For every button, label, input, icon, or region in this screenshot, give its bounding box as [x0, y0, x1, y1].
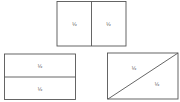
rectangle-horizontal-split: ½ ½ — [5, 54, 76, 100]
fraction-label-bottom: ½ — [38, 86, 43, 92]
fraction-label-top: ½ — [38, 63, 43, 69]
fraction-label-left: ½ — [72, 21, 77, 27]
halves-diagram: ½ ½ ½ ½ ½ ½ — [0, 0, 180, 102]
rectangle-diagonal-split: ½ ½ — [108, 53, 179, 99]
fraction-label-right: ½ — [106, 21, 111, 27]
rectangle-vertical-split: ½ ½ — [57, 2, 126, 47]
fraction-label-upper-triangle: ½ — [132, 65, 137, 71]
fraction-label-lower-triangle: ½ — [155, 81, 160, 87]
